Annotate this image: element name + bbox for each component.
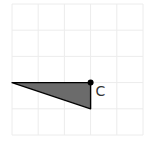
point-c [88,80,94,86]
grid [12,4,143,135]
diagram-canvas: C [0,0,147,143]
point-label: C [96,83,106,99]
triangle [12,83,91,109]
